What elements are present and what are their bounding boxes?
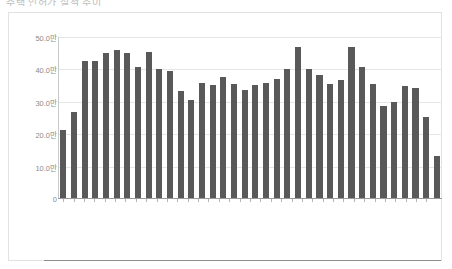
bar[interactable]	[82, 61, 88, 198]
bar[interactable]	[210, 85, 216, 198]
bar[interactable]	[274, 79, 280, 198]
bar[interactable]	[402, 86, 408, 198]
plot-area	[58, 37, 442, 199]
bar[interactable]	[103, 53, 109, 198]
bar-item[interactable]	[90, 37, 101, 198]
bar[interactable]	[146, 52, 152, 198]
x-axis-line	[58, 198, 442, 199]
bar[interactable]	[135, 67, 141, 198]
bar[interactable]	[220, 77, 226, 198]
bar-item[interactable]	[218, 37, 229, 198]
table-bottom-rule	[44, 260, 441, 261]
bar-item[interactable]	[79, 37, 90, 198]
bar[interactable]	[391, 102, 397, 198]
bar[interactable]	[124, 53, 130, 198]
chart-container: 010.0만20.0만30.0만40.0만50.0만	[8, 12, 442, 261]
bar-item[interactable]	[357, 37, 368, 198]
bar-item[interactable]	[314, 37, 325, 198]
y-axis-tick-label: 40.0만	[35, 64, 57, 75]
y-axis-labels: 010.0만20.0만30.0만40.0만50.0만	[21, 37, 57, 199]
bar[interactable]	[434, 156, 440, 198]
y-axis-tick-label: 10.0만	[35, 161, 57, 172]
bar-item[interactable]	[421, 37, 432, 198]
y-axis-line	[58, 37, 59, 199]
bar-item[interactable]	[389, 37, 400, 198]
bar[interactable]	[370, 84, 376, 198]
bar[interactable]	[242, 90, 248, 199]
bar[interactable]	[316, 75, 322, 198]
bar[interactable]	[167, 71, 173, 198]
bar-item[interactable]	[346, 37, 357, 198]
y-axis-tick-label: 50.0만	[35, 32, 57, 43]
bar-item[interactable]	[271, 37, 282, 198]
bar-item[interactable]	[101, 37, 112, 198]
bar-item[interactable]	[432, 37, 443, 198]
bar-item[interactable]	[261, 37, 272, 198]
bar-item[interactable]	[111, 37, 122, 198]
bar-item[interactable]	[143, 37, 154, 198]
x-axis-labels	[58, 201, 442, 211]
bar-item[interactable]	[239, 37, 250, 198]
bar[interactable]	[295, 47, 301, 198]
y-axis-tick-label: 0	[53, 195, 57, 204]
bar-item[interactable]	[250, 37, 261, 198]
bar[interactable]	[327, 84, 333, 198]
bar[interactable]	[92, 61, 98, 198]
bar[interactable]	[348, 47, 354, 198]
bar[interactable]	[60, 130, 66, 198]
y-axis-tick-label: 20.0만	[35, 129, 57, 140]
bar-item[interactable]	[293, 37, 304, 198]
bar[interactable]	[359, 67, 365, 198]
bar-item[interactable]	[303, 37, 314, 198]
bar-item[interactable]	[367, 37, 378, 198]
bar-item[interactable]	[400, 37, 411, 198]
bar-item[interactable]	[154, 37, 165, 198]
bar[interactable]	[71, 112, 77, 198]
bar[interactable]	[380, 106, 386, 198]
bar-item[interactable]	[335, 37, 346, 198]
bar-item[interactable]	[122, 37, 133, 198]
chart-page: 주택 인허가 실적 추이 010.0만20.0만30.0만40.0만50.0만	[0, 0, 452, 269]
page-title: 주택 인허가 실적 추이	[6, 0, 306, 6]
bar[interactable]	[114, 50, 120, 198]
bar-item[interactable]	[229, 37, 240, 198]
bar-item[interactable]	[207, 37, 218, 198]
bar[interactable]	[284, 69, 290, 198]
y-axis-tick-label: 30.0만	[35, 96, 57, 107]
bar[interactable]	[231, 84, 237, 198]
bar-item[interactable]	[282, 37, 293, 198]
bar-item[interactable]	[165, 37, 176, 198]
bar[interactable]	[263, 83, 269, 198]
bar-item[interactable]	[186, 37, 197, 198]
bar[interactable]	[306, 69, 312, 198]
bar[interactable]	[199, 83, 205, 198]
bar-item[interactable]	[197, 37, 208, 198]
bar-item[interactable]	[175, 37, 186, 198]
bar[interactable]	[178, 91, 184, 198]
bar[interactable]	[188, 100, 194, 198]
bar-item[interactable]	[410, 37, 421, 198]
bar[interactable]	[423, 117, 429, 198]
bar[interactable]	[412, 88, 418, 198]
bar[interactable]	[338, 80, 344, 198]
bar[interactable]	[252, 85, 258, 198]
bar-item[interactable]	[378, 37, 389, 198]
bar-item[interactable]	[133, 37, 144, 198]
bar-item[interactable]	[325, 37, 336, 198]
bar[interactable]	[156, 69, 162, 198]
bar-item[interactable]	[58, 37, 69, 198]
bar-series	[58, 37, 442, 198]
bar-item[interactable]	[69, 37, 80, 198]
